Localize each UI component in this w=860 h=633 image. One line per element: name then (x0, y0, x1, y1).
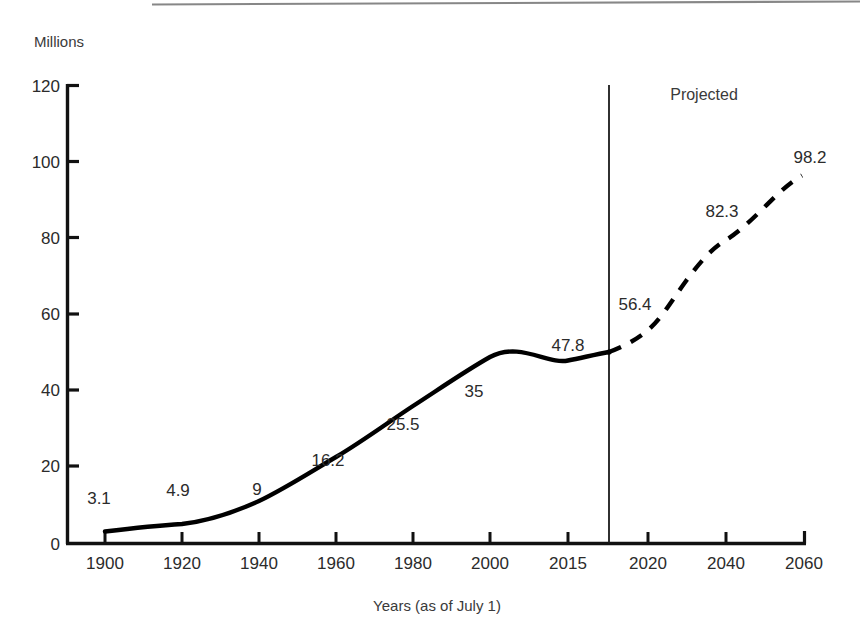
x-tick-label-2000: 2000 (471, 554, 509, 573)
x-tick-label-1900: 1900 (86, 554, 124, 573)
x-tick-label-1920: 1920 (163, 554, 201, 573)
x-tick-label-1940: 1940 (240, 554, 278, 573)
data-label-1960: 16.2 (311, 451, 344, 470)
data-label-2020: 56.4 (618, 295, 651, 314)
series-historical-curve (105, 351, 609, 531)
y-tick-label-0: 0 (51, 535, 60, 554)
data-label-1980: 25.5 (386, 415, 419, 434)
x-tick-label-1960: 1960 (317, 554, 355, 573)
data-label-2015: 47.8 (551, 336, 584, 355)
data-label-1940: 9 (252, 480, 261, 499)
scan-artifact-line (152, 2, 860, 5)
y-axis-title: Millions (34, 33, 84, 50)
data-label-1900: 3.1 (87, 489, 111, 508)
y-tick-label-40: 40 (41, 381, 60, 400)
y-tick-label-100: 100 (32, 153, 60, 172)
line-chart-canvas: Millions 120 100 80 60 40 20 0 (0, 0, 860, 633)
y-axis-tick-labels: 120 100 80 60 40 20 0 (32, 77, 60, 554)
data-label-2000: 35 (465, 382, 484, 401)
y-tick-label-20: 20 (41, 457, 60, 476)
x-tick-label-2040: 2040 (707, 554, 745, 573)
data-label-2060: 98.2 (793, 148, 826, 167)
y-tick-label-80: 80 (41, 229, 60, 248)
y-tick-label-60: 60 (41, 305, 60, 324)
data-label-1920: 4.9 (166, 481, 190, 500)
y-tick-label-120: 120 (32, 77, 60, 96)
projected-annotation: Projected (670, 86, 738, 103)
chart-figure: Millions 120 100 80 60 40 20 0 (0, 0, 860, 633)
x-axis-title: Years (as of July 1) (373, 597, 501, 614)
x-tick-label-2020: 2020 (629, 554, 667, 573)
x-tick-label-2060: 2060 (785, 554, 823, 573)
data-label-2040: 82.3 (705, 202, 738, 221)
series-junction-point (606, 349, 611, 354)
x-tick-label-1980: 1980 (394, 554, 432, 573)
data-point-labels: 3.1 4.9 9 16.2 25.5 35 47.8 56.4 82.3 98… (87, 148, 826, 508)
series-historical-line (105, 390, 490, 531)
x-axis-tick-labels: 1900 1920 1940 1960 1980 2000 2015 2020 … (86, 554, 823, 573)
x-tick-label-2015: 2015 (549, 554, 587, 573)
